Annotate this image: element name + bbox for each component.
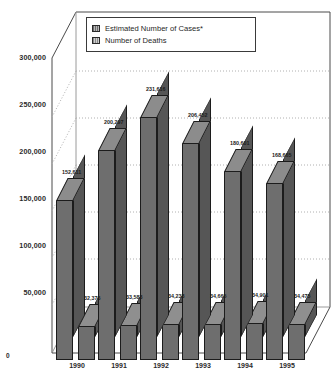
bar-cases (98, 150, 115, 360)
series-2-swatch-icon (92, 37, 100, 44)
bar-cases (182, 143, 199, 360)
bar-front-face (98, 150, 115, 360)
x-axis: 199019911992199319941995 (52, 362, 328, 380)
bar-front-face (204, 324, 221, 360)
x-tick-1991: 1991 (96, 362, 142, 369)
bar-deaths (78, 326, 95, 360)
y-axis: 300,000 250,000 200,000 150,000 100,000 … (0, 0, 46, 387)
series-1-swatch-icon (92, 25, 100, 32)
value-label-deaths: 34,475 (294, 293, 311, 299)
value-label-deaths: 34,665 (210, 293, 227, 299)
x-tick-1993: 1993 (180, 362, 226, 369)
y-axis-origin-label: 0 (6, 352, 10, 359)
bar-deaths (162, 324, 179, 360)
y-tick-200000: 200,000 (0, 148, 46, 156)
legend-label-deaths: Number of Deaths (105, 36, 167, 45)
value-label-cases: 168,665 (272, 152, 292, 158)
bar-front-face (182, 143, 199, 360)
y-tick-250000: 250,000 (0, 101, 46, 109)
bar-cases (224, 171, 241, 360)
bar-front-face (78, 326, 95, 360)
bar-front-face (224, 171, 241, 360)
bar-front-face (120, 325, 137, 360)
x-tick-1992: 1992 (138, 362, 184, 369)
chart-legend: Estimated Number of Cases* Number of Dea… (86, 17, 256, 52)
value-label-cases: 152,611 (62, 169, 81, 175)
bar-deaths (246, 323, 263, 360)
bar-cases (56, 200, 73, 360)
value-label-cases: 206,452 (188, 112, 208, 118)
bar-deaths (204, 324, 221, 360)
value-label-deaths: 34,901 (252, 292, 269, 298)
bar-front-face (56, 200, 73, 360)
bar-front-face (246, 323, 263, 360)
value-label-deaths: 32,376 (84, 295, 101, 301)
bar-chart: 300,000 250,000 200,000 150,000 100,000 … (0, 0, 334, 387)
plot-area: 152,61132,376200,29733,583231,61634,2382… (52, 12, 328, 360)
bar-front-face (162, 324, 179, 360)
x-tick-1990: 1990 (54, 362, 100, 369)
x-tick-1994: 1994 (222, 362, 268, 369)
value-label-cases: 180,601 (230, 140, 250, 146)
y-tick-150000: 150,000 (0, 195, 46, 203)
value-label-deaths: 34,238 (168, 293, 185, 299)
y-tick-50000: 50,000 (0, 289, 46, 297)
legend-item-deaths: Number of Deaths (92, 35, 250, 46)
bar-group: 168,66534,475 (266, 12, 318, 360)
bar-cases (140, 117, 157, 360)
legend-label-cases: Estimated Number of Cases* (105, 24, 203, 33)
bar-front-face (288, 324, 305, 360)
bar-front-face (266, 183, 283, 360)
y-tick-100000: 100,000 (0, 242, 46, 250)
value-label-deaths: 33,583 (126, 294, 143, 300)
legend-item-cases: Estimated Number of Cases* (92, 23, 250, 34)
bar-front-face (140, 117, 157, 360)
y-tick-300000: 300,000 (0, 54, 46, 62)
bar-deaths (120, 325, 137, 360)
value-label-cases: 231,616 (146, 86, 166, 92)
bar-cases (266, 183, 283, 360)
bar-deaths (288, 324, 305, 360)
x-tick-1995: 1995 (264, 362, 310, 369)
value-label-cases: 200,297 (104, 119, 124, 125)
